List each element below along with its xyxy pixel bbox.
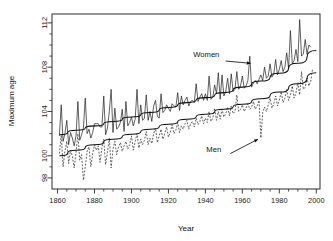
y-axis-title: Maximum age xyxy=(7,75,16,126)
max-age-trend-chart: 98100104108112 1860188019001920194019601… xyxy=(0,0,333,241)
trend-line-men xyxy=(59,73,316,156)
x-tick-label: 1880 xyxy=(86,196,102,205)
plot-frame xyxy=(52,14,320,189)
y-tick-label: 104 xyxy=(40,105,49,117)
y-axis-tick-labels: 98100104108112 xyxy=(40,17,49,182)
x-axis-title: Year xyxy=(178,224,195,233)
x-tick-label: 1900 xyxy=(123,196,139,205)
x-tick-label: 1940 xyxy=(197,196,213,205)
annotation-arrow-men xyxy=(230,139,258,153)
x-axis-tick-labels: 18601880190019201940196019802000 xyxy=(49,196,324,205)
annotations-layer: WomenMen xyxy=(193,50,258,154)
annotation-label-women: Women xyxy=(193,50,219,59)
series-line-women xyxy=(59,20,310,146)
y-tick-label: 100 xyxy=(40,150,49,162)
y-tick-label: 112 xyxy=(40,17,49,29)
series-line-men xyxy=(59,68,312,180)
data-series-layer xyxy=(59,20,312,181)
annotation-label-men: Men xyxy=(206,145,221,154)
x-tick-label: 2000 xyxy=(308,196,324,205)
x-axis-ticks xyxy=(58,189,317,194)
y-tick-label: 108 xyxy=(40,61,49,73)
chart-canvas: 98100104108112 1860188019001920194019601… xyxy=(0,0,333,241)
plot-border xyxy=(52,14,320,189)
x-tick-label: 1860 xyxy=(49,196,65,205)
x-tick-label: 1920 xyxy=(160,196,176,205)
y-tick-label: 98 xyxy=(40,174,49,182)
x-tick-label: 1980 xyxy=(271,196,287,205)
x-tick-label: 1960 xyxy=(234,196,250,205)
